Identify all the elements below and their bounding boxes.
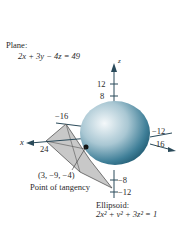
z-tick-12: 12 [97, 80, 106, 89]
y-tick-neg12: −12 [152, 127, 165, 136]
z-tick-8: 8 [100, 92, 104, 101]
y-tick-16: 16 [156, 140, 165, 149]
z-tick-neg12: −12 [118, 188, 131, 197]
ellipsoid [80, 101, 150, 165]
ellipsoid-equation: 2x² + y² + 3z² = 1 [96, 210, 157, 217]
x-axis-label: x [20, 138, 24, 147]
plane-equation: 2x + 3y − 4z = 49 [18, 52, 80, 61]
plane-title: Plane: [6, 41, 27, 50]
z-tick-neg8: −8 [118, 176, 127, 185]
x-tick-24: 24 [40, 145, 49, 154]
tangent-point-coords: (3, −9, −4) [38, 171, 75, 180]
tangent-point-caption: Point of tangency [30, 183, 90, 192]
z-axis-label: z [118, 58, 121, 65]
y-tick-neg16: −16 [55, 112, 68, 121]
